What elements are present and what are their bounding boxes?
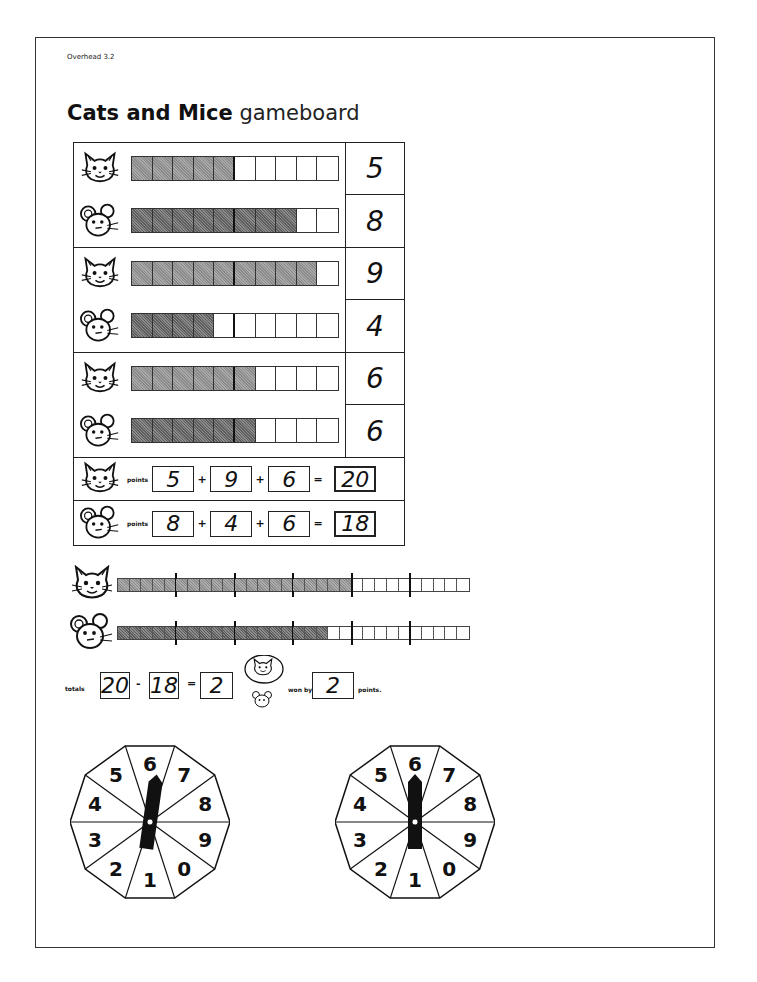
bar-cell[interactable] — [317, 209, 338, 232]
bar-cell[interactable] — [153, 157, 174, 180]
cat-score-box[interactable]: 9 — [346, 248, 404, 300]
bar-cell[interactable] — [445, 579, 457, 591]
cat-round-1-points-box[interactable]: 5 — [152, 466, 194, 492]
bar-cell[interactable] — [141, 579, 153, 591]
bar-cell[interactable] — [132, 262, 153, 285]
bar-cell[interactable] — [256, 367, 277, 390]
bar-cell[interactable] — [173, 419, 194, 442]
bar-cell[interactable] — [387, 627, 399, 639]
bar-cell[interactable] — [375, 579, 387, 591]
bar-cell[interactable] — [118, 627, 130, 639]
bar-cell[interactable] — [214, 367, 235, 390]
bar-cell[interactable] — [247, 627, 259, 639]
bar-cell[interactable] — [118, 579, 130, 591]
mouse-total-box[interactable]: 18 — [149, 672, 179, 699]
bar-cell[interactable] — [340, 579, 352, 591]
bar-cell[interactable] — [194, 209, 215, 232]
bar-cell[interactable] — [153, 209, 174, 232]
bar-cell[interactable] — [200, 627, 212, 639]
bar-cell[interactable] — [132, 419, 153, 442]
spinner-right[interactable]: 6789012345 — [335, 737, 495, 907]
bar-cell[interactable] — [363, 627, 375, 639]
bar-cell[interactable] — [235, 627, 247, 639]
bar-cell[interactable] — [256, 314, 277, 337]
bar-cell[interactable] — [256, 262, 277, 285]
bar-cell[interactable] — [297, 157, 318, 180]
bar-cell[interactable] — [153, 367, 174, 390]
difference-box[interactable]: 2 — [200, 672, 233, 699]
bar-cell[interactable] — [214, 419, 235, 442]
bar-cell[interactable] — [317, 314, 338, 337]
bar-cell[interactable] — [276, 314, 297, 337]
bar-cell[interactable] — [188, 627, 200, 639]
cat-round-2-points-box[interactable]: 9 — [210, 466, 252, 492]
bar-cell[interactable] — [173, 314, 194, 337]
bar-cell[interactable] — [173, 157, 194, 180]
bar-cell[interactable] — [363, 579, 375, 591]
bar-cell[interactable] — [276, 209, 297, 232]
bar-cell[interactable] — [256, 419, 277, 442]
bar-cell[interactable] — [297, 314, 318, 337]
bar-cell[interactable] — [130, 579, 142, 591]
bar-cell[interactable] — [176, 579, 188, 591]
bar-cell[interactable] — [235, 157, 256, 180]
bar-cell[interactable] — [153, 579, 165, 591]
bar-cell[interactable] — [132, 157, 153, 180]
bar-cell[interactable] — [387, 579, 399, 591]
bar-cell[interactable] — [194, 314, 215, 337]
bar-cell[interactable] — [235, 262, 256, 285]
mouse-score-box[interactable]: 8 — [346, 195, 404, 247]
bar-cell[interactable] — [276, 157, 297, 180]
bar-cell[interactable] — [258, 627, 270, 639]
bar-cell[interactable] — [194, 367, 215, 390]
bar-cell[interactable] — [132, 209, 153, 232]
bar-cell[interactable] — [141, 627, 153, 639]
bar-cell[interactable] — [434, 579, 446, 591]
bar-cell[interactable] — [317, 419, 338, 442]
cat-round-3-points-box[interactable]: 6 — [268, 466, 310, 492]
bar-cell[interactable] — [235, 367, 256, 390]
bar-cell[interactable] — [247, 579, 259, 591]
bar-cell[interactable] — [214, 262, 235, 285]
bar-cell[interactable] — [214, 314, 235, 337]
bar-cell[interactable] — [200, 579, 212, 591]
bar-cell[interactable] — [457, 579, 469, 591]
spinner-left[interactable]: 6789012345 — [70, 737, 230, 907]
bar-cell[interactable] — [410, 579, 422, 591]
bar-cell[interactable] — [194, 262, 215, 285]
bar-cell[interactable] — [173, 262, 194, 285]
bar-cell[interactable] — [375, 627, 387, 639]
bar-cell[interactable] — [132, 367, 153, 390]
bar-cell[interactable] — [132, 314, 153, 337]
cat-score-box[interactable]: 5 — [346, 143, 404, 195]
bar-cell[interactable] — [223, 579, 235, 591]
bar-cell[interactable] — [235, 579, 247, 591]
bar-cell[interactable] — [258, 579, 270, 591]
bar-cell[interactable] — [276, 262, 297, 285]
bar-cell[interactable] — [173, 209, 194, 232]
bar-cell[interactable] — [235, 209, 256, 232]
bar-cell[interactable] — [256, 209, 277, 232]
bar-cell[interactable] — [235, 419, 256, 442]
bar-cell[interactable] — [297, 262, 318, 285]
bar-cell[interactable] — [165, 579, 177, 591]
bar-cell[interactable] — [282, 627, 294, 639]
bar-cell[interactable] — [165, 627, 177, 639]
bar-cell[interactable] — [214, 209, 235, 232]
mouse-round-3-points-box[interactable]: 6 — [268, 511, 310, 537]
spinner-pointer-icon[interactable] — [408, 774, 422, 849]
mouse-round-2-points-box[interactable]: 4 — [210, 511, 252, 537]
bar-cell[interactable] — [410, 627, 422, 639]
bar-cell[interactable] — [305, 579, 317, 591]
won-by-box[interactable]: 2 — [312, 672, 354, 699]
bar-cell[interactable] — [297, 209, 318, 232]
bar-cell[interactable] — [399, 627, 411, 639]
bar-cell[interactable] — [223, 627, 235, 639]
bar-cell[interactable] — [214, 157, 235, 180]
bar-cell[interactable] — [293, 627, 305, 639]
bar-cell[interactable] — [194, 419, 215, 442]
bar-cell[interactable] — [434, 627, 446, 639]
bar-cell[interactable] — [153, 314, 174, 337]
bar-cell[interactable] — [457, 627, 469, 639]
bar-cell[interactable] — [293, 579, 305, 591]
